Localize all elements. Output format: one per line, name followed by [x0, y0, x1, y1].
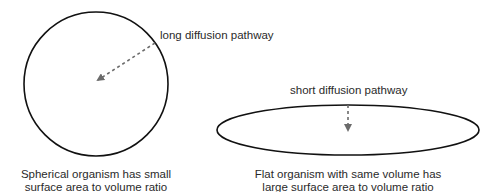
flat-caption: Flat organism with same volume has large…: [253, 168, 443, 192]
spherical-caption: Spherical organism has small surface are…: [6, 168, 186, 192]
flat-caption-line2: large surface area to volume ratio: [253, 181, 443, 192]
flat-caption-line1: Flat organism with same volume has: [253, 168, 443, 181]
spherical-organism-circle: [24, 12, 168, 156]
spherical-caption-line1: Spherical organism has small: [6, 168, 186, 181]
long-diffusion-arrow: [98, 43, 155, 80]
long-diffusion-label: long diffusion pathway: [160, 29, 274, 42]
spherical-caption-line2: surface area to volume ratio: [6, 181, 186, 192]
short-diffusion-label: short diffusion pathway: [290, 84, 407, 97]
